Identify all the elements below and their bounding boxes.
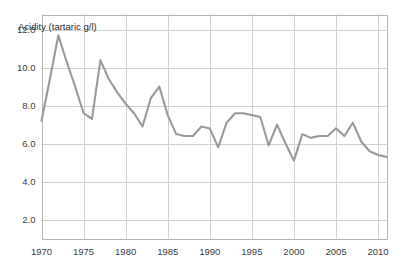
y-tick-label: 10.0 [17, 62, 36, 73]
x-axis-tick-labels: 197019751980198519901995200020052010 [31, 246, 389, 257]
acidity-line-chart: 2.04.06.08.010.012.0 1970197519801985199… [0, 0, 403, 274]
x-tick-label: 1980 [115, 246, 136, 257]
x-tick-label: 2010 [368, 246, 389, 257]
x-tick-label: 1990 [199, 246, 220, 257]
x-tick-label: 1975 [73, 246, 94, 257]
x-tick-label: 2005 [325, 246, 346, 257]
x-tick-label: 1985 [157, 246, 178, 257]
x-tick-label: 1970 [31, 246, 52, 257]
chart-canvas: 2.04.06.08.010.012.0 1970197519801985199… [0, 0, 403, 274]
x-tick-label: 2000 [283, 246, 304, 257]
chart-title: Acidity (tartaric g/l) [18, 21, 97, 32]
x-tick-label: 1995 [241, 246, 262, 257]
y-tick-label: 6.0 [22, 138, 35, 149]
y-tick-label: 8.0 [22, 100, 35, 111]
y-tick-label: 2.0 [22, 214, 35, 225]
plot-background [42, 15, 387, 239]
y-tick-label: 4.0 [22, 176, 35, 187]
y-axis-tick-labels: 2.04.06.08.010.012.0 [17, 24, 36, 225]
